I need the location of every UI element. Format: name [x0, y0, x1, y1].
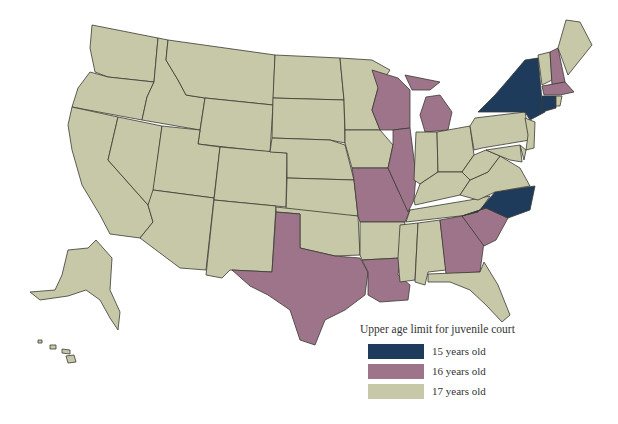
legend-label-17: 17 years old	[432, 385, 486, 397]
state-new-york	[478, 58, 545, 120]
state-massachusetts	[542, 82, 574, 95]
legend-label-15: 15 years old	[432, 345, 486, 357]
state-connecticut	[542, 96, 556, 112]
state-colorado	[214, 147, 287, 207]
legend-item-15: 15 years old	[368, 341, 598, 361]
state-alaska	[30, 240, 120, 330]
state-new-mexico	[206, 200, 276, 278]
state-pennsylvania	[470, 112, 530, 150]
legend-title: Upper age limit for juvenile court	[360, 323, 598, 335]
legend-item-17: 17 years old	[368, 381, 598, 401]
legend-swatch-15	[368, 344, 424, 359]
map-legend: Upper age limit for juvenile court 15 ye…	[358, 323, 598, 401]
state-rhode-island	[556, 96, 562, 106]
state-south-dakota	[272, 98, 345, 143]
legend-item-16: 16 years old	[368, 361, 598, 381]
state-mississippi	[398, 223, 418, 282]
state-hawaii	[38, 340, 76, 363]
state-iowa	[345, 130, 393, 168]
legend-label-16: 16 years old	[432, 365, 486, 377]
state-maine	[558, 20, 592, 75]
legend-swatch-16	[368, 364, 424, 379]
state-arizona	[140, 190, 214, 270]
state-wyoming	[198, 98, 273, 152]
state-michigan	[405, 75, 452, 132]
state-wisconsin	[372, 70, 410, 130]
legend-swatch-17	[368, 384, 424, 399]
state-north-dakota	[273, 55, 344, 100]
state-washington	[90, 25, 158, 82]
